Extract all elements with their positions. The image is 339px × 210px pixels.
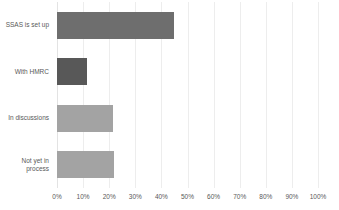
bar <box>57 105 113 132</box>
plot-area <box>57 2 318 188</box>
bar-series <box>57 2 318 188</box>
gridline-100 <box>318 2 319 188</box>
x-axis-tick-labels: 0%10%20%30%40%50%60%70%80%90%100% <box>0 192 339 204</box>
x-tick-label: 20% <box>103 192 116 202</box>
x-tick-label: 50% <box>181 192 194 202</box>
x-tick-label: 100% <box>310 192 327 202</box>
category-label-line: Not yet in <box>0 157 49 165</box>
x-tick-label: 0% <box>52 192 61 202</box>
x-tick-label: 30% <box>129 192 142 202</box>
category-label: Not yet inprocess <box>0 157 49 173</box>
category-label-line: With HMRC <box>0 68 49 76</box>
x-tick-label: 80% <box>259 192 272 202</box>
category-label: SSAS is set up <box>0 21 49 29</box>
bar <box>57 12 174 39</box>
category-label: In discussions <box>0 114 49 122</box>
category-label-line: SSAS is set up <box>0 21 49 29</box>
category-label-line: In discussions <box>0 114 49 122</box>
category-axis-labels: SSAS is set upWith HMRCIn discussionsNot… <box>0 2 53 188</box>
x-tick-label: 60% <box>207 192 220 202</box>
x-tick-label: 40% <box>155 192 168 202</box>
x-tick-label: 10% <box>77 192 90 202</box>
bar <box>57 58 87 85</box>
category-label: With HMRC <box>0 68 49 76</box>
bar <box>57 151 114 178</box>
x-tick-label: 90% <box>285 192 298 202</box>
horizontal-bar-chart: SSAS is set upWith HMRCIn discussionsNot… <box>0 0 339 210</box>
category-label-line: process <box>0 165 49 173</box>
x-tick-label: 70% <box>233 192 246 202</box>
